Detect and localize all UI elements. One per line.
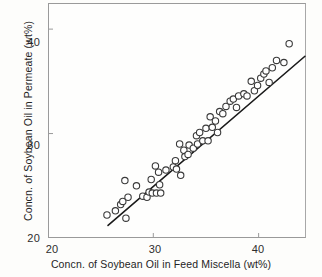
chart-figure: 40 30 20 20 30 40 Concn. of Soybean Oil … bbox=[0, 0, 322, 277]
x-tick-label-40: 40 bbox=[243, 243, 273, 255]
x-axis-title: Concn. of Soybean Oil in Feed Miscella (… bbox=[0, 258, 322, 270]
x-tick-label-20: 20 bbox=[37, 243, 67, 255]
plot-area bbox=[48, 3, 306, 238]
x-tick-label-30: 30 bbox=[140, 243, 170, 255]
y-axis-title: Concn. of Soybean Oil in Permeate (wt%) bbox=[22, 1, 34, 241]
